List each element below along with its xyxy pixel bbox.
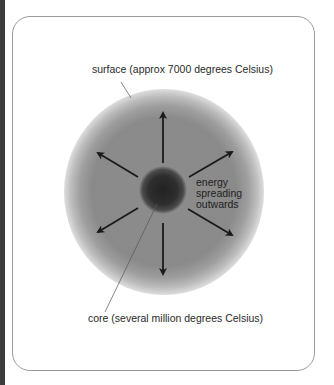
energy-label: energy spreading outwards	[196, 177, 242, 210]
surface-label: surface (approx 7000 degrees Celsius)	[92, 64, 273, 75]
sun-core	[139, 166, 187, 214]
cut-off-caption	[12, 381, 312, 385]
sun-diagram	[0, 0, 334, 385]
energy-label-line-3: outwards	[196, 199, 242, 210]
page: surface (approx 7000 degrees Celsius) en…	[0, 0, 334, 385]
surface-leader-line	[121, 82, 131, 98]
core-label: core (several million degrees Celsius)	[88, 313, 263, 324]
